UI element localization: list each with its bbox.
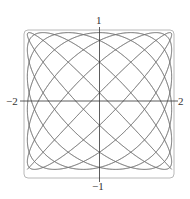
- parametric-plot: [0, 0, 190, 199]
- x-min-label: −2: [6, 96, 18, 107]
- x-max-label: 2: [178, 96, 184, 107]
- y-max-label: 1: [96, 15, 102, 26]
- y-min-label: −1: [92, 181, 104, 192]
